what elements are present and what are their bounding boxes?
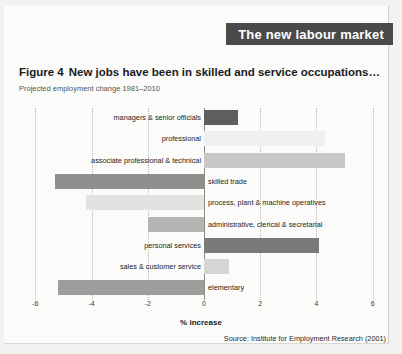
x-tick--2: -2 xyxy=(145,300,151,307)
figure-page: The new labour market Figure 4New jobs h… xyxy=(0,0,402,354)
figure-title-text: New jobs have been in skilled and servic… xyxy=(69,66,380,78)
chart-bar-label: elementary xyxy=(208,281,244,294)
section-header-band: The new labour market xyxy=(226,23,393,45)
chart-plot-area: managers & senior officialsprofessionala… xyxy=(0,108,402,300)
chart-bar-label: professional xyxy=(162,132,201,145)
chart-bar xyxy=(55,174,204,189)
chart-bar-label: process, plant & machine operatives xyxy=(208,196,326,209)
chart-bar xyxy=(204,110,238,125)
chart-row: managers & senior officials xyxy=(0,108,402,129)
chart-bar xyxy=(86,195,204,210)
x-tick-6: 6 xyxy=(371,300,375,307)
x-axis-label: % increase xyxy=(0,318,402,327)
chart-row: skilled trade xyxy=(0,172,402,193)
x-tick--4: -4 xyxy=(88,300,94,307)
source-note: Source: Institute for Employment Researc… xyxy=(224,334,386,343)
chart-row: process, plant & machine operatives xyxy=(0,193,402,214)
chart-bar xyxy=(204,131,325,146)
chart-bar-label: skilled trade xyxy=(208,175,247,188)
chart-row: sales & customer service xyxy=(0,257,402,278)
x-tick-4: 4 xyxy=(314,300,318,307)
figure-title: Figure 4New jobs have been in skilled an… xyxy=(19,66,380,78)
chart-bar xyxy=(148,217,204,232)
x-tick-2: 2 xyxy=(258,300,262,307)
section-header-title: The new labour market xyxy=(238,27,384,42)
x-tick-0: 0 xyxy=(202,300,206,307)
chart-bar xyxy=(204,153,345,168)
chart-bar xyxy=(204,238,319,253)
chart-bar-label: administrative, clerical & secretarial xyxy=(208,218,322,231)
figure-number: Figure 4 xyxy=(19,66,64,78)
x-tick--6: -6 xyxy=(32,300,38,307)
chart-row: personal services xyxy=(0,236,402,257)
chart-row: professional xyxy=(0,129,402,150)
chart-bar-label: managers & senior officials xyxy=(114,111,201,124)
chart-bar xyxy=(204,259,229,274)
chart-bar-label: personal services xyxy=(144,239,201,252)
chart-row: elementary xyxy=(0,278,402,299)
chart-row: associate professional & technical xyxy=(0,151,402,172)
chart-bar xyxy=(58,280,204,295)
chart-row: administrative, clerical & secretarial xyxy=(0,215,402,236)
figure-subtitle: Projected employment change 1981–2010 xyxy=(19,84,160,93)
chart-bar-label: associate professional & technical xyxy=(91,154,201,167)
chart-bar-label: sales & customer service xyxy=(120,260,201,273)
